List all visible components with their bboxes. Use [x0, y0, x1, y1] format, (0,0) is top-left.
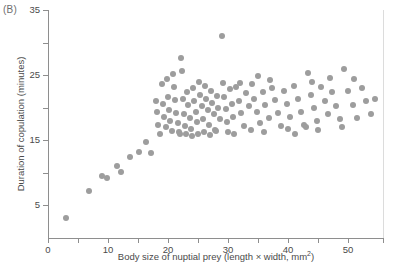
x-tick-end	[383, 238, 384, 243]
data-point	[167, 118, 173, 124]
x-tick-label-0: 0	[45, 244, 50, 255]
data-point	[227, 86, 233, 92]
x-tick-20	[168, 238, 169, 243]
data-point	[63, 215, 69, 221]
data-point	[177, 131, 183, 137]
x-tick-25	[198, 238, 199, 243]
data-point	[179, 68, 185, 74]
data-point	[166, 107, 172, 113]
x-tick-label-20: 20	[163, 244, 174, 255]
data-point	[287, 114, 293, 120]
data-point	[327, 75, 333, 81]
x-tick-0	[48, 238, 49, 243]
data-point	[172, 97, 178, 103]
data-point	[127, 154, 133, 160]
data-point	[278, 123, 284, 129]
data-point	[339, 124, 345, 130]
data-point	[354, 115, 360, 121]
data-point	[231, 131, 237, 137]
data-point	[351, 76, 357, 82]
data-point	[180, 96, 186, 102]
data-point	[254, 109, 260, 115]
data-point	[191, 98, 197, 104]
data-point	[214, 93, 220, 99]
data-point	[246, 103, 252, 109]
data-point	[311, 105, 317, 111]
data-point	[314, 118, 320, 124]
data-point	[275, 110, 281, 116]
data-point	[188, 126, 194, 132]
data-point	[272, 97, 278, 103]
data-point	[194, 119, 200, 125]
data-point	[337, 116, 343, 122]
data-point	[163, 124, 169, 130]
y-tick-25: 25	[43, 75, 48, 76]
data-point	[209, 100, 215, 106]
data-point	[229, 101, 235, 107]
data-point	[236, 98, 242, 104]
data-point	[292, 131, 298, 137]
data-point	[243, 90, 249, 96]
data-point	[143, 139, 149, 145]
data-point	[104, 175, 110, 181]
data-point	[303, 124, 309, 130]
y-tick-20	[43, 108, 48, 109]
data-point	[291, 83, 297, 89]
data-point	[220, 80, 226, 86]
x-axis-line	[48, 238, 384, 239]
data-point	[202, 83, 208, 89]
data-point	[309, 79, 315, 85]
data-point	[267, 77, 273, 83]
data-point	[184, 89, 190, 95]
y-tick-label-25: 25	[29, 69, 40, 80]
y-tick-label-15: 15	[29, 134, 40, 145]
panel-label: (B)	[3, 4, 17, 15]
data-point	[157, 131, 163, 137]
data-point	[118, 169, 124, 175]
data-point	[284, 101, 290, 107]
data-point	[213, 128, 219, 134]
data-point	[205, 107, 211, 113]
data-point	[241, 123, 247, 129]
data-point	[153, 98, 159, 104]
data-point	[185, 102, 191, 108]
data-point	[325, 111, 331, 117]
data-point	[345, 88, 351, 94]
data-point	[165, 94, 171, 100]
data-point	[261, 129, 267, 135]
data-point	[175, 120, 181, 126]
data-point	[281, 88, 287, 94]
y-tick-15: 15	[43, 140, 48, 141]
figure-panel-b: (B) Duration of copulation (minutes) Bod…	[0, 0, 395, 271]
y-tick-35: 35	[43, 10, 48, 11]
data-point	[359, 85, 365, 91]
data-point	[329, 89, 335, 95]
data-point	[211, 111, 217, 117]
x-tick-label-50: 50	[343, 244, 354, 255]
data-point	[255, 73, 261, 79]
data-point	[368, 111, 374, 117]
data-point	[372, 96, 378, 102]
data-point	[219, 33, 225, 39]
data-point	[190, 85, 196, 91]
data-point	[171, 84, 177, 90]
plot-right-border	[383, 10, 384, 238]
data-point	[207, 132, 213, 138]
data-point	[262, 102, 268, 108]
data-point	[322, 98, 328, 104]
plot-area: 5152535 01020304050	[48, 10, 383, 238]
y-tick-label-35: 35	[29, 4, 40, 15]
data-point	[260, 89, 266, 95]
x-tick-30	[228, 238, 229, 243]
x-tick-label-10: 10	[103, 244, 114, 255]
data-point	[187, 115, 193, 121]
y-tick-30	[43, 43, 48, 44]
data-point	[249, 81, 255, 87]
data-point	[266, 115, 272, 121]
y-tick-10	[43, 173, 48, 174]
data-point	[238, 110, 244, 116]
x-axis-title-suffix: )	[311, 251, 314, 262]
data-point	[251, 96, 257, 102]
x-tick-40	[288, 238, 289, 243]
data-point	[318, 84, 324, 90]
